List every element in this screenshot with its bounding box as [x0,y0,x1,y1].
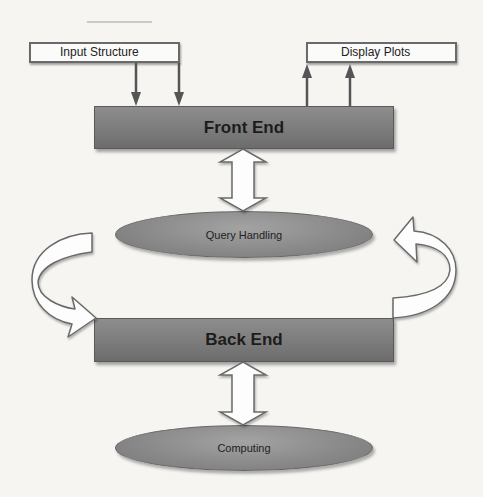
display-plots-label: Display Plots [341,44,410,61]
query-handling-label: Query Handling [206,229,282,241]
curved-arrow-left-icon [32,233,96,337]
back-end-label: Back End [205,330,282,350]
curved-arrow-right-icon [393,217,456,318]
input-structure-label: Input Structure [60,44,139,61]
double-arrow-backend-computing-icon [220,362,266,425]
architecture-diagram: Input Structure Display Plots Front End … [0,0,483,497]
double-arrow-frontend-query-icon [220,149,266,211]
computing-label: Computing [217,442,270,454]
output-arrow-left-icon [302,64,312,106]
query-handling-node: Query Handling [115,211,373,258]
computing-node: Computing [115,425,373,471]
input-arrow-right-icon [174,63,184,106]
output-arrow-right-icon [345,64,355,106]
scan-line-decoration [87,21,152,23]
back-end-block: Back End [94,318,394,362]
front-end-block: Front End [94,106,394,149]
front-end-label: Front End [204,118,284,138]
display-plots-box: Display Plots [306,42,457,63]
input-arrow-left-icon [131,63,141,106]
input-structure-box: Input Structure [29,42,180,63]
